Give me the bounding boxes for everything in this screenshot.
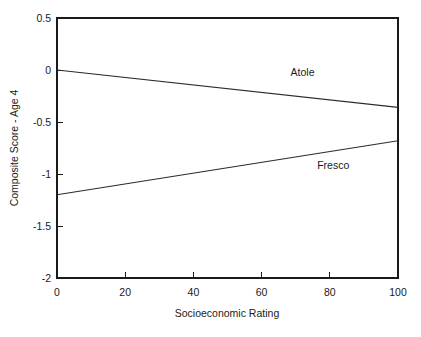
y-tick-label-3: -1 xyxy=(42,168,51,180)
line-chart: 0.5 0 -0.5 -1 -1.5 -2 0 20 40 60 80 100 … xyxy=(0,0,421,337)
x-tick-label-2: 40 xyxy=(188,286,200,298)
x-tick-label-1: 20 xyxy=(119,286,131,298)
series-label-fresco: Fresco xyxy=(317,159,349,171)
x-tick-label-4: 80 xyxy=(324,286,336,298)
y-axis-title: Composite Score - Age 4 xyxy=(8,89,20,206)
x-axis-title: Socioeconomic Rating xyxy=(175,307,280,319)
y-tick-label-4: -1.5 xyxy=(33,220,51,232)
y-tick-label-5: -2 xyxy=(42,272,51,284)
chart-background xyxy=(0,0,421,337)
series-label-atole: Atole xyxy=(291,66,315,78)
x-tick-label-3: 60 xyxy=(256,286,268,298)
x-tick-label-0: 0 xyxy=(54,286,60,298)
chart-container: 0.5 0 -0.5 -1 -1.5 -2 0 20 40 60 80 100 … xyxy=(0,0,421,337)
x-tick-label-5: 100 xyxy=(389,286,407,298)
y-tick-label-2: -0.5 xyxy=(33,116,51,128)
y-tick-label-1: 0 xyxy=(45,64,51,76)
y-tick-label-0: 0.5 xyxy=(36,12,51,24)
